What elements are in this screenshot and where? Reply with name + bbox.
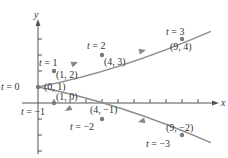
coord-label-4-3: (4, 3) [104, 56, 126, 68]
coord-label-9-4: (9, 4) [170, 41, 192, 53]
y-axis-label: y [33, 9, 39, 20]
coord-label-1-2: (1, 2) [56, 69, 78, 81]
t-label-neg1: t = −1 [21, 106, 45, 117]
arrow-icon [64, 105, 73, 114]
x-axis-arrow-icon [212, 101, 219, 106]
coord-label-1-0: (1, 0) [56, 91, 78, 103]
x-axis-label: x [220, 97, 226, 108]
parametric-curve-diagram: y x t = 3 t = 2 t = 1 t = 0 t = −1 t = −… [0, 0, 228, 158]
arrow-icon [138, 47, 146, 55]
arrow-icon [70, 59, 79, 67]
point-t-neg3 [180, 133, 184, 137]
y-axis-arrow-icon [36, 19, 41, 26]
coord-label-9-neg2: (9, −2) [166, 122, 193, 134]
y-ticks [38, 39, 42, 151]
arrow-icon [137, 117, 145, 125]
t-label-3: t = 3 [166, 26, 184, 37]
t-label-2: t = 2 [87, 40, 105, 51]
t-label-1: t = 1 [39, 57, 57, 68]
t-label-neg3: t = −3 [146, 138, 170, 149]
t-label-neg2: t = −2 [70, 121, 94, 132]
t-label-0: t = 0 [1, 81, 19, 92]
point-t-0 [36, 85, 40, 89]
coord-label-4-neg1: (4, −1) [90, 104, 117, 116]
point-t-neg2 [100, 117, 104, 121]
